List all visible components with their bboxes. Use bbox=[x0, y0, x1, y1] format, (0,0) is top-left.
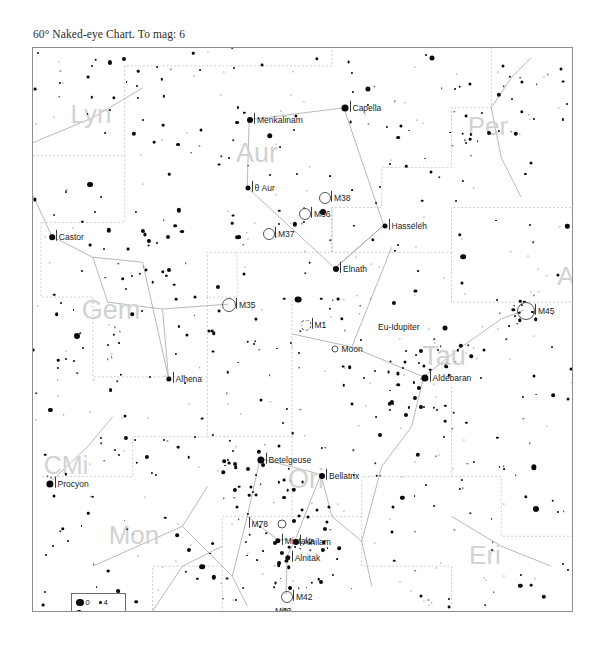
dso-marker-m38[interactable] bbox=[319, 192, 331, 204]
star-point bbox=[359, 313, 361, 315]
named-star-castor[interactable] bbox=[49, 234, 55, 240]
named-star-elnath[interactable] bbox=[333, 266, 339, 272]
star-point bbox=[298, 367, 300, 369]
star-point bbox=[282, 422, 284, 424]
star-point bbox=[218, 310, 221, 313]
named-star-capella[interactable] bbox=[342, 105, 349, 112]
star-point bbox=[276, 348, 278, 350]
named-star--aur[interactable] bbox=[246, 186, 251, 191]
star-point bbox=[528, 255, 529, 256]
star-point bbox=[253, 343, 255, 345]
star-point bbox=[96, 586, 98, 588]
star-point bbox=[261, 463, 265, 467]
dso-marker-m42[interactable] bbox=[281, 591, 293, 603]
star-point bbox=[57, 359, 60, 362]
named-star-hasseleh[interactable] bbox=[383, 224, 388, 229]
star-point bbox=[351, 189, 353, 191]
star-point bbox=[121, 417, 122, 418]
named-star-menkalinam[interactable] bbox=[247, 117, 253, 123]
dso-marker-m36[interactable] bbox=[299, 208, 311, 220]
legend-magnitude-value: 0 bbox=[86, 598, 90, 607]
star-point bbox=[496, 299, 498, 301]
star-point bbox=[300, 509, 303, 512]
star-point bbox=[163, 220, 165, 222]
star-point bbox=[222, 459, 226, 463]
star-point bbox=[286, 489, 289, 492]
star-point bbox=[45, 554, 47, 556]
star-point bbox=[567, 398, 570, 401]
star-point bbox=[209, 553, 211, 555]
dso-marker-m78[interactable] bbox=[278, 520, 287, 529]
star-point bbox=[405, 165, 408, 168]
dso-marker-m35[interactable] bbox=[222, 298, 236, 312]
star-point bbox=[405, 350, 407, 352]
star-point bbox=[236, 505, 239, 508]
star-point bbox=[201, 417, 204, 420]
star-point bbox=[248, 494, 251, 497]
star-point bbox=[55, 313, 59, 317]
star-point bbox=[280, 578, 282, 580]
star-point bbox=[348, 365, 352, 369]
dso-label-m1: M1 bbox=[315, 321, 327, 330]
dso-marker-m45[interactable] bbox=[517, 302, 535, 320]
dso-marker-m1[interactable] bbox=[301, 320, 312, 331]
star-point bbox=[437, 349, 439, 351]
star-point bbox=[418, 362, 420, 364]
dso-marker-moon[interactable] bbox=[332, 346, 339, 353]
star-label-alhena: Alhena bbox=[176, 375, 202, 384]
star-point bbox=[400, 582, 401, 583]
star-point bbox=[100, 196, 102, 198]
star-point bbox=[408, 130, 410, 132]
star-point bbox=[246, 467, 250, 471]
star-point bbox=[176, 143, 180, 147]
star-point bbox=[142, 119, 144, 121]
star-point bbox=[248, 533, 251, 536]
star-point bbox=[396, 383, 400, 387]
star-point bbox=[173, 224, 177, 228]
star-point bbox=[298, 587, 300, 589]
star-point bbox=[469, 138, 472, 141]
star-point bbox=[430, 55, 435, 60]
star-point bbox=[50, 477, 52, 479]
star-point bbox=[136, 462, 139, 465]
star-point bbox=[52, 495, 55, 498]
star-point bbox=[433, 338, 435, 340]
named-star-bellatrix[interactable] bbox=[319, 473, 325, 479]
star-point bbox=[336, 558, 338, 560]
star-point bbox=[274, 581, 277, 584]
star-point bbox=[33, 91, 34, 92]
star-point bbox=[567, 569, 569, 571]
star-point bbox=[168, 173, 171, 176]
star-point bbox=[389, 360, 392, 363]
star-point bbox=[232, 139, 234, 141]
star-point bbox=[194, 436, 196, 438]
star-label-alnitak: Alnitak bbox=[295, 554, 321, 563]
star-point bbox=[441, 88, 443, 90]
star-point bbox=[294, 546, 296, 548]
star-point bbox=[260, 484, 262, 486]
star-point bbox=[444, 420, 447, 423]
dso-marker-m37[interactable] bbox=[263, 228, 275, 240]
star-point bbox=[238, 485, 241, 488]
star-point bbox=[337, 297, 340, 300]
star-point bbox=[392, 505, 395, 508]
star-point bbox=[262, 550, 264, 552]
star-point bbox=[298, 352, 300, 354]
star-point bbox=[551, 394, 555, 398]
star-point bbox=[104, 132, 106, 134]
star-point bbox=[180, 231, 182, 233]
star-point bbox=[469, 354, 473, 358]
star-label-castor: Castor bbox=[59, 233, 84, 242]
star-point bbox=[242, 587, 244, 589]
star-point bbox=[560, 67, 563, 70]
star-point bbox=[453, 468, 454, 469]
star-point bbox=[460, 281, 463, 284]
star-point bbox=[309, 166, 311, 168]
sky-chart-frame[interactable]: LynAurPerGemTauACMiOriMonEri CapellaMenk… bbox=[32, 47, 573, 612]
star-point bbox=[221, 471, 225, 475]
star-label-elnath: Elnath bbox=[343, 265, 367, 274]
star-point bbox=[533, 241, 535, 243]
star-point bbox=[484, 605, 486, 607]
star-point bbox=[242, 273, 245, 276]
star-point bbox=[310, 550, 312, 552]
